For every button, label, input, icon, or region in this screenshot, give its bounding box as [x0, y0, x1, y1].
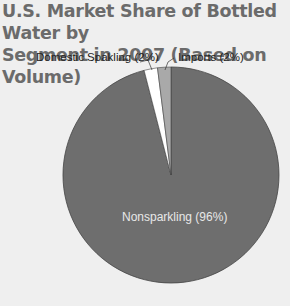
label-nonsparkling: Nonsparkling (96%): [122, 210, 227, 224]
label-imports: Imports (2%): [178, 51, 244, 63]
label-domestic-sparkling: Domestic Spakling (2%): [36, 51, 159, 63]
pie-chart: Domestic Spakling (2%) Imports (2%) Nons…: [0, 0, 290, 306]
